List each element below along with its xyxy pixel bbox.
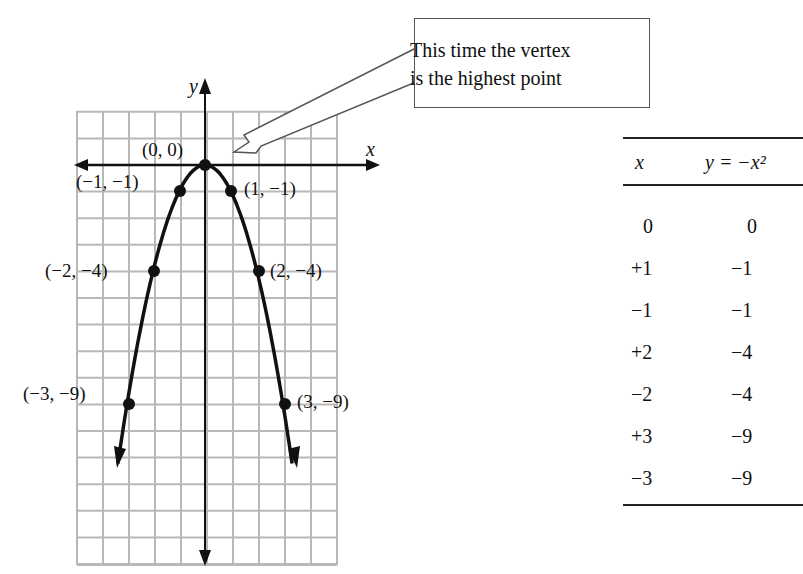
y-axis-up-arrow-icon xyxy=(199,78,211,94)
cell-y: −9 xyxy=(731,467,752,490)
table-bottom-rule xyxy=(623,504,803,506)
callout-line-2: is the highest point xyxy=(410,64,571,92)
point-label-m3-m9: (−3, −9) xyxy=(23,383,86,405)
cell-x: −2 xyxy=(631,383,652,406)
cell-x: +3 xyxy=(631,425,652,448)
cell-y: −1 xyxy=(731,257,752,280)
table-header-rule xyxy=(623,184,803,186)
x-axis-right-arrow-icon xyxy=(366,159,380,171)
point-label-2-m4: (2, −4) xyxy=(270,260,322,282)
table-header-x: x xyxy=(635,151,644,174)
cell-x: +2 xyxy=(631,341,652,364)
table-header-y: y = −x² xyxy=(705,151,766,174)
cell-x: −1 xyxy=(631,299,652,322)
point-3-m9 xyxy=(279,398,291,410)
cell-x: +1 xyxy=(631,257,652,280)
y-axis-label: y xyxy=(187,75,198,98)
parabola-graph: x y (0, 0) (−1, −1) (1, −1) (−2, −4) (2,… xyxy=(0,0,803,574)
point-label-0-0: (0, 0) xyxy=(142,139,183,161)
callout-text: This time the vertex is the highest poin… xyxy=(410,36,571,92)
cell-x: 0 xyxy=(643,215,653,238)
callout-arrow-icon xyxy=(234,48,416,153)
point-m3-m9 xyxy=(123,398,135,410)
table-top-rule xyxy=(623,137,803,139)
point-label-m2-m4: (−2, −4) xyxy=(45,260,108,282)
cell-y: −1 xyxy=(731,299,752,322)
callout-line-1: This time the vertex xyxy=(410,36,571,64)
point-m2-m4 xyxy=(148,265,160,277)
cell-y: 0 xyxy=(747,215,757,238)
point-label-m1-m1: (−1, −1) xyxy=(76,171,139,193)
cell-y: −9 xyxy=(731,425,752,448)
point-0-0 xyxy=(199,159,211,171)
point-1-m1 xyxy=(225,185,237,197)
point-label-3-m9: (3, −9) xyxy=(297,391,349,413)
point-m1-m1 xyxy=(174,185,186,197)
cell-y: −4 xyxy=(731,383,752,406)
point-label-1-m1: (1, −1) xyxy=(244,178,296,200)
x-axis-label: x xyxy=(365,138,375,160)
cell-y: −4 xyxy=(731,341,752,364)
point-2-m4 xyxy=(253,265,265,277)
cell-x: −3 xyxy=(631,467,652,490)
